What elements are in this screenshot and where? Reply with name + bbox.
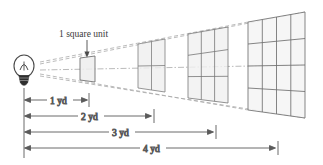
measure-1yd-arrow-right [82, 98, 88, 103]
measure-4yd-label: 4 yd [143, 144, 160, 154]
measure-3yd-arrow-right [208, 130, 214, 135]
measure-2yd-label: 2 yd [81, 112, 98, 122]
measure-4yd-arrow-right [270, 146, 276, 151]
panel-1-fill [80, 56, 95, 82]
measure-3yd-arrow-left [25, 130, 31, 135]
measure-2yd-arrow-left [25, 114, 31, 119]
measure-2yd-arrow-right [146, 114, 152, 119]
measure-1yd-arrow-left [25, 98, 31, 103]
square-unit-annotation: 1 square unit [59, 29, 108, 58]
measure-3yd-label: 3 yd [112, 128, 129, 138]
inverse-square-law-figure: 1 square unit 1 yd 2 yd [0, 0, 323, 165]
measure-4yd: 4 yd [25, 141, 279, 155]
measure-4yd-arrow-left [25, 146, 31, 151]
measure-1yd-label: 1 yd [50, 96, 67, 106]
panel-3-fill [188, 27, 228, 103]
measure-2yd: 2 yd [25, 109, 155, 123]
light-bulb-icon [14, 55, 34, 85]
measure-1yd: 1 yd [25, 93, 90, 107]
panel-fills [80, 12, 305, 118]
panel-2-hline-1 [138, 66, 165, 67]
square-unit-label: 1 square unit [59, 29, 108, 39]
measurement-rules: 1 yd 2 yd 3 yd 4 yd [24, 88, 278, 158]
measure-3yd: 3 yd [25, 125, 217, 139]
diagram-canvas: 1 square unit 1 yd 2 yd [0, 0, 323, 165]
